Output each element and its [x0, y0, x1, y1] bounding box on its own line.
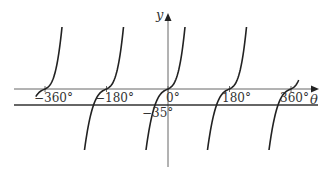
tick-label-neg360: −360° — [34, 91, 73, 105]
tick-label-180: 180° — [222, 91, 251, 105]
tick-label-0: 0° — [166, 91, 180, 105]
y-axis-arrow-icon — [165, 13, 172, 21]
theta-axis-label: θ — [310, 92, 318, 107]
y-axis-label: y — [155, 7, 164, 22]
graph: y θ −360° −180° 0° 180° 360° −35° — [0, 0, 332, 172]
tick-label-360: 360° — [280, 91, 309, 105]
tick-label-neg180: −180° — [95, 91, 134, 105]
curve-branch — [36, 27, 62, 97]
reference-line-label: −35° — [142, 106, 173, 120]
